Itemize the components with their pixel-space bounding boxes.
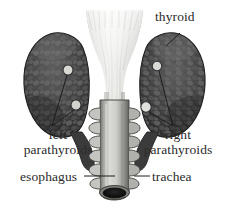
anatomy-illustration [0, 0, 229, 220]
trachea-lumen-opening [103, 188, 126, 198]
label-trachea: trachea [152, 170, 192, 185]
label-left-parathyroids: left parathyroids [8, 128, 108, 157]
label-right-parathyroids-line1: right [128, 128, 228, 143]
thyroid-anatomy-figure: thyroid left parathyroids right parathyr… [0, 0, 229, 220]
label-right-parathyroids-line2: parathyroids [128, 143, 228, 158]
label-left-parathyroids-line2: parathyroids [8, 143, 108, 158]
parathyroid-gland-right-superior [152, 61, 162, 71]
label-thyroid: thyroid [155, 10, 195, 25]
label-right-parathyroids: right parathyroids [128, 128, 228, 157]
label-esophagus: esophagus [20, 170, 77, 185]
parathyroid-gland-left-inferior [71, 100, 81, 110]
parathyroid-gland-left-superior [63, 65, 73, 75]
label-left-parathyroids-line1: left [8, 128, 108, 143]
parathyroid-gland-right-inferior [141, 102, 151, 112]
